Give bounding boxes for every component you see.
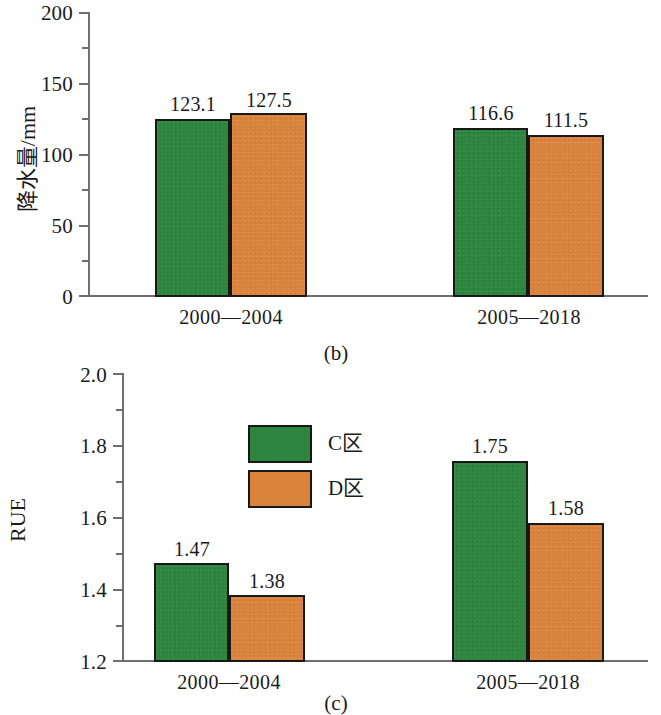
panel-b-ytick-minor-175 <box>82 47 88 49</box>
legend-label-d: D区 <box>328 478 364 499</box>
panel-b-y-axis <box>88 12 90 297</box>
panel-b-bar-c-2005-2018 <box>453 128 528 297</box>
panel-c-ytick-label-1-2: 1.2 <box>44 652 107 673</box>
panel-b-ytick-100 <box>79 154 88 156</box>
panel-b-ytick-label-200: 200 <box>10 3 73 24</box>
panel-b-xtick-label-1: 2000—2004 <box>151 307 311 327</box>
panel-b-value-c-2005-2018: 116.6 <box>450 103 532 123</box>
panel-c-value-c-2000-2004: 1.47 <box>151 539 233 559</box>
panel-c-caption: (c) <box>311 691 361 715</box>
panel-b-value-c-2000-2004: 123.1 <box>152 94 234 114</box>
panel-c-xtick-label-1: 2000—2004 <box>149 672 309 692</box>
panel-b-caption: (b) <box>311 341 361 366</box>
panel-c-value-d-2000-2004: 1.38 <box>226 571 308 591</box>
panel-b-ytick-50 <box>79 225 88 227</box>
panel-c-ytick-minor-1-3 <box>116 625 122 627</box>
panel-c-bar-d-2005-2018 <box>528 523 604 662</box>
legend-swatch-d <box>248 470 312 508</box>
panel-c-legend: C区 D区 <box>0 365 661 505</box>
panel-b-ytick-200 <box>79 12 88 14</box>
panel-b-ytick-0 <box>79 295 88 297</box>
panel-c-value-d-2005-2018: 1.58 <box>525 498 607 518</box>
panel-b-value-d-2000-2004: 127.5 <box>228 90 310 110</box>
panel-b-bar-c-2000-2004 <box>155 119 230 297</box>
panel-c-xtick-label-2: 2005—2018 <box>448 672 608 692</box>
figure-root: 200 150 100 50 0 降水量/mm 123.1 127.5 116.… <box>0 0 661 715</box>
panel-b-ytick-minor-75 <box>82 189 88 191</box>
panel-c-ytick-1-4 <box>113 589 122 591</box>
panel-b-xtick-label-2: 2005—2018 <box>449 307 609 327</box>
panel-b-value-d-2005-2018: 111.5 <box>525 110 607 130</box>
legend-label-c: C区 <box>328 433 363 454</box>
panel-c-bar-c-2005-2018 <box>452 461 528 662</box>
panel-c-value-c-2005-2018: 1.75 <box>449 436 531 456</box>
panel-c-ytick-minor-1-5 <box>116 553 122 555</box>
panel-b-bar-d-2005-2018 <box>528 135 604 297</box>
panel-c-bar-d-2000-2004 <box>229 595 305 662</box>
panel-b-ytick-label-0: 0 <box>10 287 73 308</box>
panel-b-ytick-minor-25 <box>82 260 88 262</box>
panel-c-ytick-1-2 <box>113 660 122 662</box>
panel-c-ytick-label-1-6: 1.6 <box>44 508 107 529</box>
panel-b-bar-d-2000-2004 <box>230 113 307 297</box>
chart-panel-c: 2.0 1.8 1.6 1.4 1.2 RUE C区 D区 1.47 1.38 … <box>0 365 661 715</box>
panel-b-y-axis-title: 降水量/mm <box>9 84 41 234</box>
panel-c-ytick-1-6 <box>113 517 122 519</box>
panel-c-bar-c-2000-2004 <box>154 563 229 662</box>
chart-panel-b: 200 150 100 50 0 降水量/mm 123.1 127.5 116.… <box>0 0 661 365</box>
panel-b-ytick-minor-125 <box>82 118 88 120</box>
legend-swatch-c <box>248 425 312 463</box>
panel-c-ytick-label-1-4: 1.4 <box>44 580 107 601</box>
panel-b-ytick-150 <box>79 83 88 85</box>
